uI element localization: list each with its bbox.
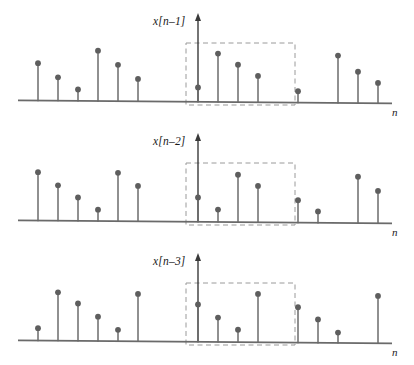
x-axis-label: n: [392, 106, 398, 118]
stem-marker: [295, 197, 301, 203]
window-box: [186, 283, 295, 345]
stem-marker: [135, 291, 141, 297]
stem-marker: [115, 62, 121, 68]
stem-marker: [295, 88, 301, 94]
stem-marker: [95, 314, 101, 320]
horizontal-axis: [18, 220, 392, 225]
stem-marker: [255, 291, 261, 297]
stem-marker: [335, 330, 341, 336]
stem-marker: [195, 195, 201, 201]
horizontal-axis: [18, 100, 392, 105]
window-box: [186, 163, 295, 225]
stem-marker: [195, 85, 201, 91]
signal-label: x[n–2]: [153, 135, 186, 147]
stem-marker: [355, 174, 361, 180]
stem-marker: [235, 62, 241, 68]
stem-marker: [375, 188, 381, 194]
stem-marker: [315, 317, 321, 323]
stem-marker: [55, 74, 61, 80]
stem-marker: [215, 51, 221, 57]
stem-marker: [95, 48, 101, 54]
window-box: [186, 43, 295, 105]
stem-marker: [35, 325, 41, 331]
stem-marker: [215, 207, 221, 213]
stem-marker: [195, 302, 201, 308]
stem-marker: [375, 80, 381, 86]
stem-marker: [95, 207, 101, 213]
stem-marker: [35, 169, 41, 175]
figure-canvas: x[n–1]nx[n–2]nx[n–3]n: [0, 0, 414, 365]
stem-marker: [135, 183, 141, 189]
stem-marker: [315, 209, 321, 215]
axis-arrowhead: [195, 133, 201, 141]
axis-arrowhead: [195, 13, 201, 21]
stem-marker: [115, 327, 121, 333]
stem-marker: [355, 69, 361, 75]
stem-marker: [55, 289, 61, 295]
stem-marker: [135, 76, 141, 82]
stem-marker: [295, 304, 301, 310]
stem-marker: [255, 73, 261, 79]
stem-marker: [75, 87, 81, 93]
stem-marker: [35, 60, 41, 66]
stem-marker: [255, 183, 261, 189]
stem-plot-1: x[n–1]n: [0, 0, 414, 120]
axis-arrowhead: [195, 253, 201, 261]
stem-plot-2: x[n–2]n: [0, 120, 414, 240]
stem-marker: [235, 172, 241, 178]
horizontal-axis: [18, 340, 392, 345]
stem-marker: [375, 293, 381, 299]
stem-marker: [215, 315, 221, 321]
stem-plot-3: x[n–3]n: [0, 240, 414, 360]
x-axis-label: n: [392, 226, 398, 238]
stem-marker: [75, 195, 81, 201]
x-axis-label: n: [392, 346, 398, 358]
signal-label: x[n–1]: [153, 15, 186, 27]
stem-marker: [115, 170, 121, 176]
stem-marker: [335, 53, 341, 59]
stem-marker: [75, 301, 81, 307]
stem-marker: [235, 327, 241, 333]
signal-label: x[n–3]: [153, 255, 186, 267]
stem-marker: [55, 182, 61, 188]
